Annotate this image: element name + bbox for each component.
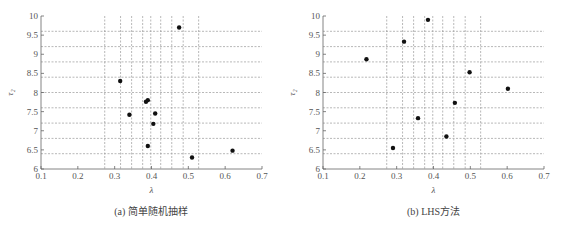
y-tick-label: 7 [34,126,39,136]
y-tick-label: 9.5 [27,30,39,40]
y-tick-label: 7.5 [27,107,39,117]
x-tick-label: 0.2 [72,171,83,181]
data-point [391,146,395,150]
data-point [426,18,430,22]
y-tick-label: 8 [316,88,321,98]
x-axis-label: λ [431,185,436,195]
y-tick-label: 8.5 [309,68,321,78]
y-tick-label: 8.5 [27,68,39,78]
x-axis-label: λ [149,185,154,195]
data-point [146,144,150,148]
x-tick-label: 0.7 [256,171,268,181]
data-point [444,134,448,138]
x-tick-label: 0.5 [465,171,477,181]
y-axis-label: τ₂ [5,89,15,95]
data-point [453,101,457,105]
data-point [190,155,194,159]
data-point [402,39,406,43]
y-axis-label: τ₂ [287,89,297,95]
caption-a: (a) 简单随机抽样 [40,203,262,218]
data-point [506,86,510,90]
y-tick-label: 9 [316,49,321,59]
y-tick-label: 9.5 [309,30,321,40]
x-tick-label: 0.2 [354,171,365,181]
x-tick-label: 0.7 [538,171,550,181]
y-tick-label: 7.5 [309,107,321,117]
y-tick-label: 10 [29,11,39,21]
data-point [146,98,150,102]
chart-panel-b: 0.10.20.30.40.50.60.766.577.588.599.510λ… [282,0,565,233]
x-tick-label: 0.5 [183,171,195,181]
data-point [467,70,471,74]
caption-b: (b) LHS方法 [323,203,544,218]
data-point [230,148,234,152]
chart-panel-a: 0.10.20.30.40.50.60.766.577.588.599.510λ… [0,0,282,233]
y-tick-label: 7 [316,126,321,136]
y-tick-label: 6 [34,164,39,174]
y-tick-label: 6.5 [309,145,321,155]
data-point [364,57,368,61]
x-tick-label: 0.4 [428,171,440,181]
scatter-plot-a: 0.10.20.30.40.50.60.766.577.588.599.510λ… [0,0,282,200]
data-point [177,25,181,29]
x-tick-label: 0.6 [220,171,232,181]
data-point [151,122,155,126]
data-point [416,116,420,120]
scatter-plot-b: 0.10.20.30.40.50.60.766.577.588.599.510λ… [282,0,565,200]
x-tick-label: 0.3 [109,171,121,181]
y-tick-label: 10 [311,11,321,21]
y-tick-label: 9 [34,49,39,59]
data-point [127,112,131,116]
y-tick-label: 6.5 [27,145,39,155]
x-tick-label: 0.6 [502,171,514,181]
data-point [153,111,157,115]
data-point [118,79,122,83]
x-tick-label: 0.4 [146,171,158,181]
y-tick-label: 6 [316,164,321,174]
y-tick-label: 8 [34,88,39,98]
x-tick-label: 0.3 [391,171,403,181]
